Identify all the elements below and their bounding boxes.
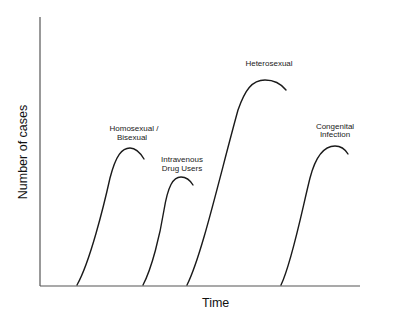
y-axis-label: Number of cases bbox=[16, 105, 30, 199]
label-heterosexual: Heterosexual bbox=[245, 59, 292, 68]
curve-congenital-infection bbox=[281, 146, 348, 285]
curve-intravenous-drug-users bbox=[143, 177, 193, 285]
label-homosexual-line1: Homosexual / bbox=[110, 124, 160, 133]
label-ivdu-line1: Intravenous bbox=[161, 155, 203, 164]
curve-heterosexual bbox=[187, 80, 286, 285]
label-homosexual-line2: Bisexual bbox=[117, 133, 147, 142]
label-congenital-line2: Infection bbox=[320, 130, 350, 139]
label-ivdu-line2: Drug Users bbox=[162, 164, 202, 173]
curve-homosexual-bisexual bbox=[77, 148, 144, 285]
epidemic-waves-chart: Homosexual / Bisexual Intravenous Drug U… bbox=[0, 0, 399, 317]
x-axis-label: Time bbox=[202, 296, 229, 310]
